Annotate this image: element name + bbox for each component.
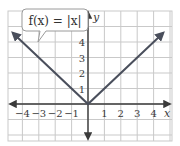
svg-text:1: 1	[101, 108, 107, 119]
svg-text:−4: −4	[15, 108, 30, 119]
svg-text:3: 3	[79, 53, 85, 64]
function-label: f(x) = |x|	[28, 14, 81, 28]
absolute-value-graph: −4−3−2−112341234 f(x) = |x| y x	[0, 0, 180, 146]
svg-text:−2: −2	[48, 108, 63, 119]
svg-text:−3: −3	[31, 108, 46, 119]
svg-text:2: 2	[79, 68, 85, 79]
x-axis-label: x	[164, 107, 171, 120]
svg-text:4: 4	[150, 108, 156, 119]
svg-text:−1: −1	[64, 108, 79, 119]
svg-text:2: 2	[118, 108, 124, 119]
svg-text:1: 1	[79, 84, 85, 95]
y-axis-label: y	[92, 11, 100, 24]
svg-text:3: 3	[134, 108, 140, 119]
svg-text:4: 4	[79, 37, 85, 48]
tick-labels: −4−3−2−112341234	[15, 37, 157, 119]
